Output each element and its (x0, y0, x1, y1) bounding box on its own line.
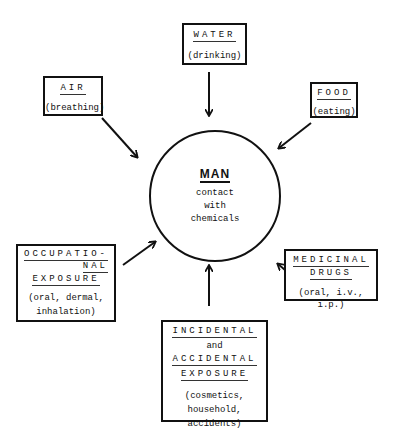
occupational-detail: (oral, dermal, (18, 292, 114, 304)
water-detail: (drinking) (184, 50, 245, 62)
arrow-occupational (123, 242, 155, 265)
man-title: MAN (200, 168, 230, 183)
center-line: chemicals (151, 213, 279, 226)
occupational-title-line: OCCUPATIO- (24, 249, 108, 261)
water-box: WATER (drinking) (182, 23, 247, 65)
incidental-title-line: EXPOSURE (181, 369, 248, 381)
occupational-box: OCCUPATIO- NAL EXPOSURE (oral, dermal, i… (16, 244, 116, 322)
center-line: contact (151, 187, 279, 200)
man-circle: MAN contact with chemicals (149, 130, 281, 262)
occupational-title-line: EXPOSURE (32, 274, 99, 286)
medicinal-title-line: DRUGS (310, 268, 352, 280)
incidental-title-line: ACCIDENTAL (172, 354, 256, 366)
incidental-title-line: INCIDENTAL (172, 326, 256, 338)
incidental-detail: (cosmetics, (163, 390, 266, 402)
medicinal-detail: (oral, i.v., i.p.) (286, 287, 376, 311)
food-title: FOOD (317, 88, 351, 100)
center-line: with (151, 200, 279, 213)
arrow-food (279, 123, 311, 148)
air-box: AIR (breathing) (43, 76, 103, 116)
medicinal-title-line: MEDICINAL (293, 255, 369, 267)
incidental-connector: and (163, 340, 266, 352)
food-detail: (eating) (312, 106, 356, 118)
incidental-box: INCIDENTAL and ACCIDENTAL EXPOSURE (cosm… (161, 320, 268, 422)
water-title: WATER (193, 30, 235, 42)
air-title: AIR (60, 83, 85, 95)
occupational-title-line: NAL (83, 261, 108, 273)
food-box: FOOD (eating) (310, 82, 358, 118)
incidental-detail: accidents) (163, 418, 266, 430)
air-detail: (breathing) (45, 102, 101, 114)
occupational-detail: inhalation) (18, 306, 114, 318)
arrow-air (102, 118, 137, 157)
incidental-detail: household, (163, 404, 266, 416)
medicinal-box: MEDICINAL DRUGS (oral, i.v., i.p.) (284, 249, 378, 301)
